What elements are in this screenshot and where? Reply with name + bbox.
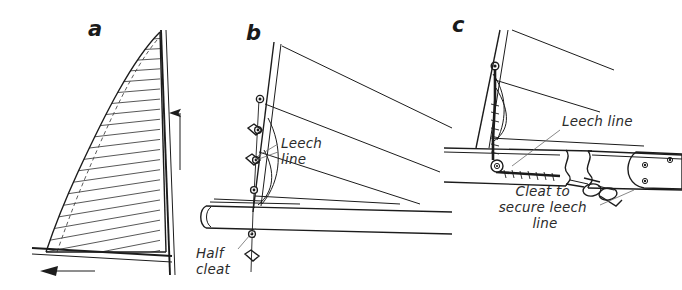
callout-leech-line-c: Leech line xyxy=(562,113,633,129)
panel-label-c: c xyxy=(452,13,465,37)
sail-seam-c-2 xyxy=(495,80,600,112)
leader-leech-line-c xyxy=(512,130,560,166)
panel-c: c xyxy=(444,13,682,206)
eyelet-cores xyxy=(251,98,262,236)
sail-leech-curve xyxy=(46,32,160,252)
figure-root: a xyxy=(0,0,682,290)
boom-right-inner-c xyxy=(592,155,682,159)
leader-half-cleat-b xyxy=(238,228,256,249)
panel-label-a: a xyxy=(88,17,102,41)
sail-seam-c-3 xyxy=(490,138,644,146)
leech-line-figure: a xyxy=(0,0,682,290)
sail-head-line-b xyxy=(282,46,452,128)
batten-seam-3 xyxy=(255,196,400,204)
mast-back-edge xyxy=(166,30,175,275)
callout-half-cleat-b: Half cleat xyxy=(196,245,231,277)
boom-break-right-c xyxy=(587,151,592,188)
boom-inner-line-c xyxy=(444,152,560,155)
boom-break-left-c xyxy=(565,150,570,186)
callout-leech-line-b: Leech line xyxy=(281,135,327,167)
boom-top-b xyxy=(206,206,452,212)
boom-end-cap-b xyxy=(201,206,206,228)
callout-cleat-secure-c: Cleat to secure leech line xyxy=(499,183,592,231)
panel-a: a xyxy=(32,17,180,286)
foot-left-arrow xyxy=(40,266,95,276)
boom-perspective-b xyxy=(210,202,300,204)
leech-eyelets xyxy=(249,95,264,237)
boom-rivets-c xyxy=(642,157,672,183)
sail-seam-c-1 xyxy=(512,30,614,70)
panel-label-b: b xyxy=(246,21,261,45)
boom-end-inner-b xyxy=(207,207,212,227)
boom-top-c xyxy=(444,148,592,151)
boom-bottom-b xyxy=(206,228,452,234)
